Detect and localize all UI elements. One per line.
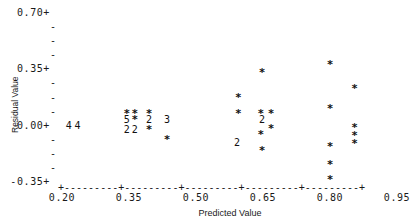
residual-plot: Residual Value 0.70+0.35+0.00+-0.35+ ---… <box>0 0 411 224</box>
y-minor-tick: - <box>50 21 56 32</box>
y-minor-tick: - <box>50 162 56 173</box>
data-point: * <box>327 60 334 70</box>
data-point-count: 2 <box>234 138 240 148</box>
y-minor-tick: - <box>50 106 56 117</box>
y-minor-tick: - <box>50 49 56 60</box>
x-tick-label: 0.50 <box>183 192 209 203</box>
data-point-count: 2 <box>124 125 130 135</box>
y-tick-label: -0.35+ <box>4 176 50 187</box>
data-point: * <box>235 109 242 119</box>
x-tick-label: 0.20 <box>49 192 75 203</box>
x-tick-label: 0.65 <box>250 192 276 203</box>
data-point-count: 2 <box>132 125 138 135</box>
y-tick-label: 0.70+ <box>4 7 50 18</box>
data-point: * <box>327 160 334 170</box>
y-minor-tick: - <box>50 77 56 88</box>
data-point: * <box>351 139 358 149</box>
data-point: * <box>146 125 153 135</box>
data-point: * <box>327 104 334 114</box>
x-tick-label: 0.35 <box>116 192 142 203</box>
y-tick-label: 0.00+ <box>4 120 50 131</box>
data-point: * <box>259 68 266 78</box>
data-point: * <box>164 135 171 145</box>
data-point-count: 2 <box>259 115 265 125</box>
data-point: * <box>257 130 264 140</box>
y-minor-tick: - <box>50 134 56 145</box>
y-minor-tick: - <box>50 35 56 46</box>
x-tick-label: 0.95 <box>384 192 410 203</box>
data-point: * <box>235 93 242 103</box>
x-axis-title: Predicted Value <box>199 208 262 218</box>
x-tick-label: 0.80 <box>317 192 343 203</box>
data-point-count: 3 <box>164 115 170 125</box>
data-point-count: 4 <box>66 121 72 131</box>
data-point-count: 4 <box>75 121 81 131</box>
y-minor-tick: - <box>50 148 56 159</box>
data-point: * <box>268 124 275 134</box>
y-tick-label: 0.35+ <box>4 63 50 74</box>
data-point: * <box>259 146 266 156</box>
data-point: * <box>268 109 275 119</box>
y-minor-tick: - <box>50 92 56 103</box>
data-point: * <box>351 84 358 94</box>
data-point: * <box>327 142 334 152</box>
